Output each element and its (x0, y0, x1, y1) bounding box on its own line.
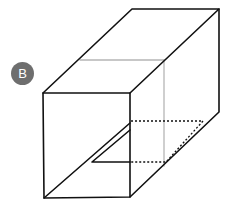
figure-label-badge: B (11, 62, 34, 85)
cuboid-diagram (0, 0, 225, 211)
inner-triangle (92, 130, 130, 162)
dotted-parallelogram (131, 121, 203, 162)
top-face (43, 9, 219, 93)
right-face (130, 9, 219, 197)
hidden-edges (80, 60, 164, 166)
cuboid-drawing (0, 0, 225, 211)
dotted-section (131, 121, 203, 162)
front-diagonal (44, 123, 130, 198)
front-face (43, 93, 130, 198)
visible-edges (43, 9, 219, 198)
